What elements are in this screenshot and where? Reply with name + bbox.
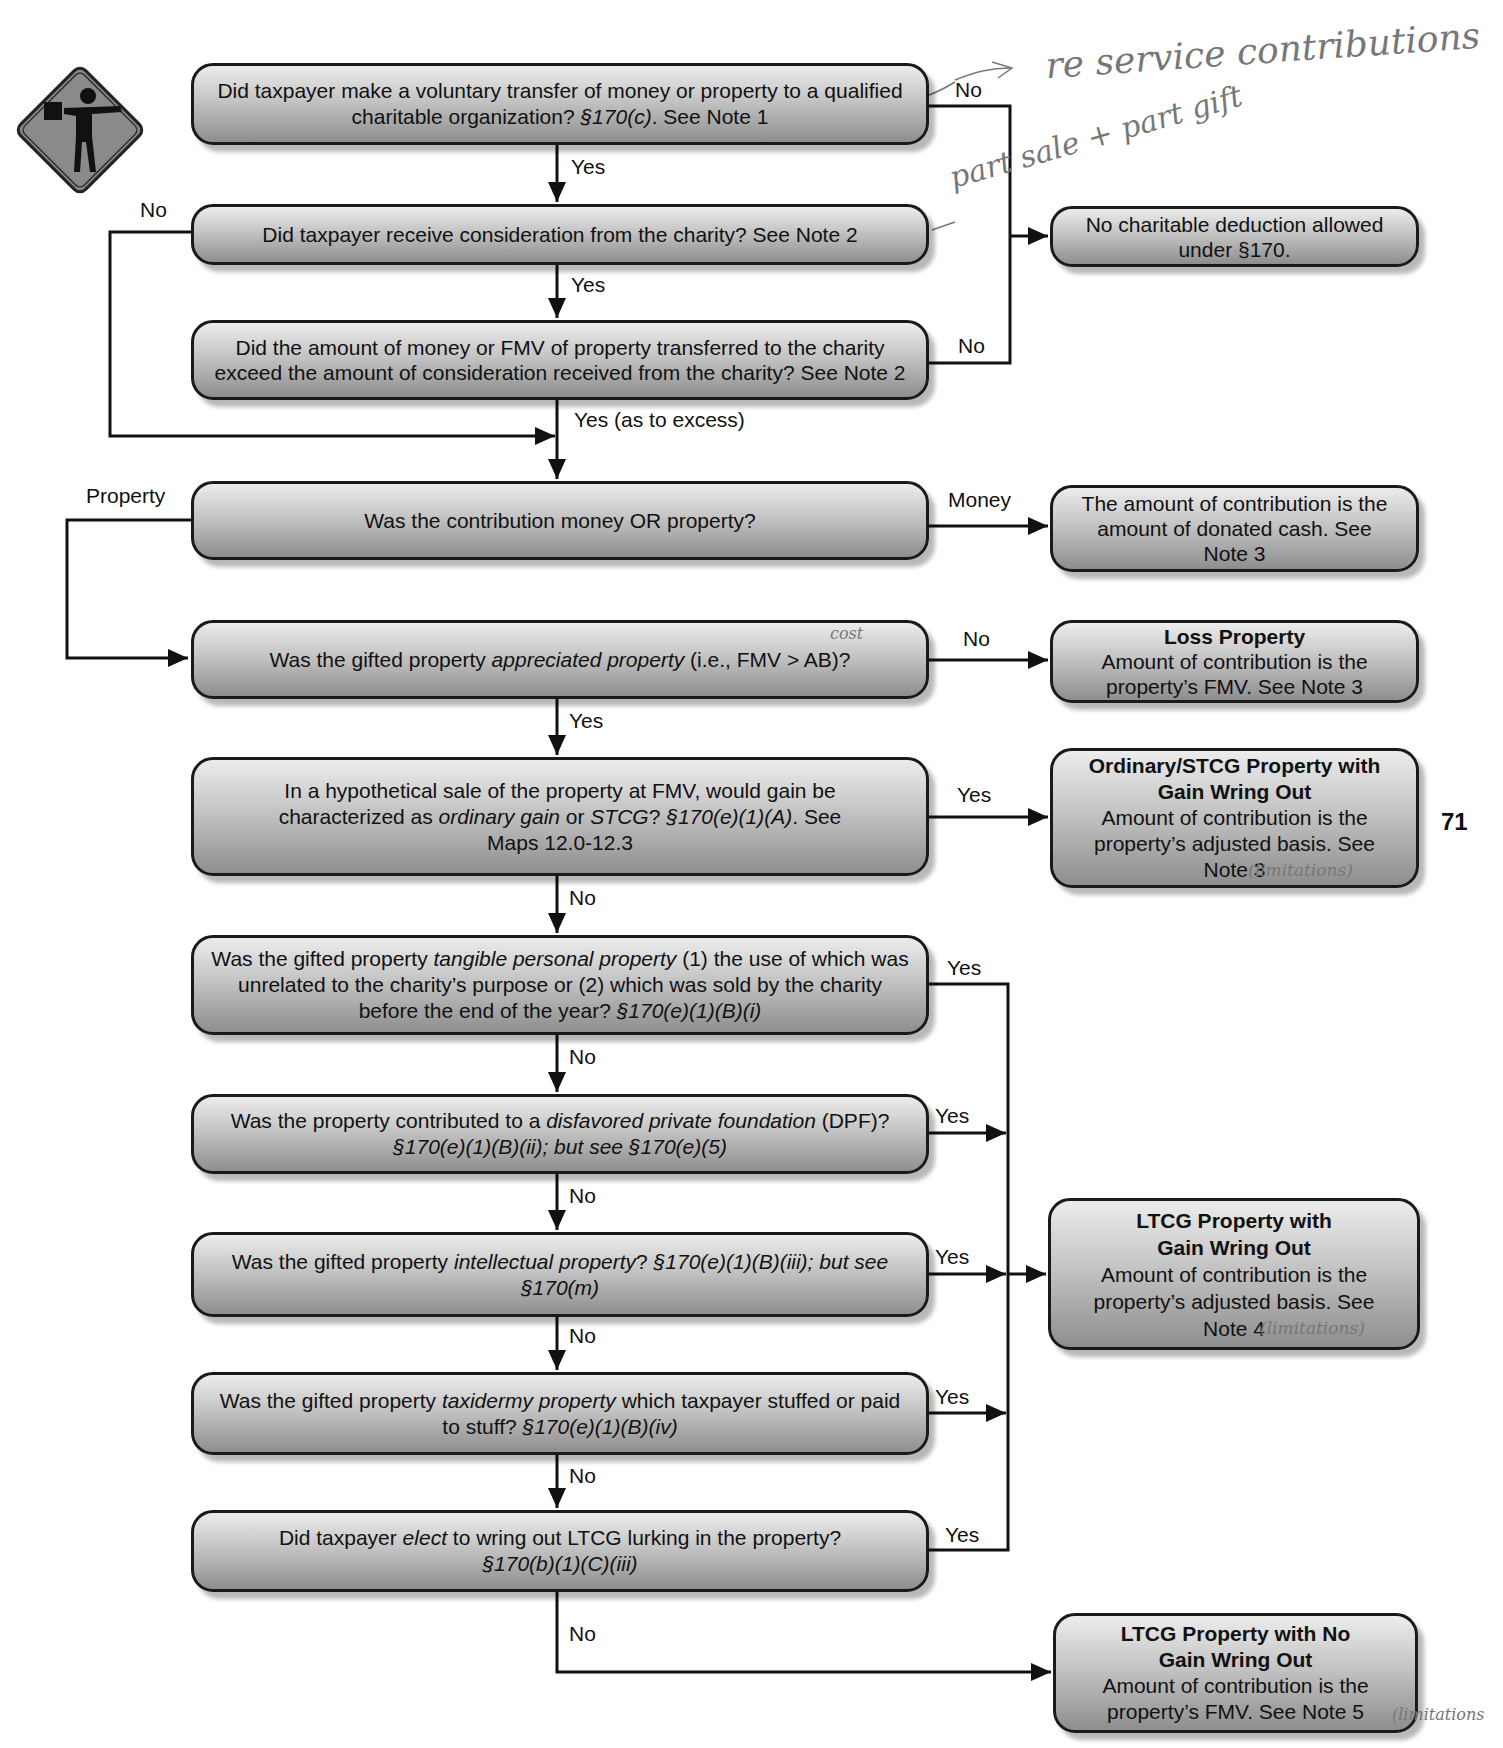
edge-label-q10-yes: Yes	[935, 1385, 969, 1409]
edge-label-q6-yes: Yes	[957, 783, 991, 807]
outcome-body: The amount of contribution is the amount…	[1082, 492, 1388, 565]
handwritten-note-limitations-1: (limitations)	[1248, 860, 1353, 880]
edge-label-q11-yes: Yes	[945, 1523, 979, 1547]
outcome-title: Ordinary/STCG Property with Gain Wring O…	[1079, 753, 1390, 805]
edge-label-q8-yes: Yes	[935, 1104, 969, 1128]
question-text: Was the gifted property taxidermy proper…	[214, 1388, 906, 1440]
outcome-title: LTCG Property with Gain Wring Out	[1077, 1207, 1391, 1261]
question-box-ordinary-gain: In a hypothetical sale of the property a…	[191, 757, 929, 876]
edge-label-q5-yes: Yes	[569, 709, 603, 733]
outcome-title: LTCG Property with No Gain Wring Out	[1078, 1621, 1393, 1673]
edge-label-q8-no: No	[569, 1184, 596, 1208]
edge-label-q5-no: No	[963, 627, 990, 651]
page-number: 71	[1441, 808, 1468, 836]
outcome-money: The amount of contribution is the amount…	[1050, 485, 1419, 572]
question-text: Was the gifted property intellectual pro…	[202, 1249, 918, 1301]
handwritten-note-limitations-3: (limitations	[1392, 1705, 1484, 1724]
outcome-ltcg-no-gain-wring-out: LTCG Property with No Gain Wring OutAmou…	[1053, 1613, 1418, 1733]
outcome-no-deduction: No charitable deduction allowed under §1…	[1050, 206, 1419, 267]
handwritten-note-limitations-2: (limitations)	[1260, 1318, 1365, 1338]
edge-label-q1-yes: Yes	[571, 155, 605, 179]
edge-label-q3-no: No	[958, 334, 985, 358]
question-box-consideration: Did taxpayer receive consideration from …	[191, 204, 929, 265]
question-text: Was the gifted property tangible persona…	[208, 946, 912, 1024]
question-box-money-or-property: Was the contribution money OR property?	[191, 481, 929, 560]
question-text: In a hypothetical sale of the property a…	[254, 778, 866, 856]
question-box-voluntary-transfer: Did taxpayer make a voluntary transfer o…	[191, 63, 929, 145]
question-text: Did the amount of money or FMV of proper…	[202, 335, 918, 385]
question-box-elect-wring-out: Did taxpayer elect to wring out LTCG lur…	[191, 1510, 929, 1592]
question-text: Did taxpayer elect to wring out LTCG lur…	[264, 1525, 856, 1577]
edge-label-q7-no: No	[569, 1045, 596, 1069]
edge-label-q9-yes: Yes	[935, 1245, 969, 1269]
question-text: Did taxpayer receive consideration from …	[262, 222, 857, 248]
question-box-excess-amount: Did the amount of money or FMV of proper…	[191, 320, 929, 400]
edge-label-q3-yes: Yes (as to excess)	[574, 408, 745, 432]
handwritten-note-cost: cost	[830, 624, 863, 643]
edge-label-q2-yes: Yes	[571, 273, 605, 297]
flagger-road-sign-icon	[8, 58, 152, 202]
edge-label-q9-no: No	[569, 1324, 596, 1348]
question-text: Did taxpayer make a voluntary transfer o…	[202, 78, 918, 130]
edge-label-q4-money: Money	[948, 488, 1011, 512]
edge-label-q4-property: Property	[86, 484, 165, 508]
question-box-tangible-personal-property: Was the gifted property tangible persona…	[191, 935, 929, 1035]
edge-label-q6-no: No	[569, 886, 596, 910]
edge-label-q11-no: No	[569, 1622, 596, 1646]
question-box-taxidermy-property: Was the gifted property taxidermy proper…	[191, 1372, 929, 1455]
outcome-body: Amount of contribution is the property’s…	[1101, 650, 1367, 698]
outcome-title: Loss Property	[1079, 624, 1390, 649]
question-box-intellectual-property: Was the gifted property intellectual pro…	[191, 1232, 929, 1317]
edge-label-q10-no: No	[569, 1464, 596, 1488]
question-box-appreciated-property: Was the gifted property appreciated prop…	[191, 620, 929, 699]
outcome-loss-property: Loss PropertyAmount of contribution is t…	[1050, 620, 1419, 703]
edge-label-q1-no: No	[955, 78, 982, 102]
edge-label-q7-yes: Yes	[947, 956, 981, 980]
question-box-disfavored-foundation: Was the property contributed to a disfav…	[191, 1094, 929, 1174]
edge-label-q2-no: No	[140, 198, 167, 222]
outcome-body: Amount of contribution is the property’s…	[1102, 1674, 1368, 1723]
outcome-body: No charitable deduction allowed under §1…	[1086, 213, 1384, 261]
outcome-ordinary-stcg: Ordinary/STCG Property with Gain Wring O…	[1050, 748, 1419, 888]
question-text: Was the contribution money OR property?	[364, 508, 755, 534]
question-text: Was the gifted property appreciated prop…	[269, 647, 850, 673]
question-text: Was the property contributed to a disfav…	[202, 1108, 918, 1160]
